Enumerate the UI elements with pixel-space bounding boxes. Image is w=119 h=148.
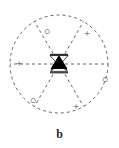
sector-symbol-top-right-plus: + — [81, 28, 93, 40]
sector-symbol-right-circle: ○ — [99, 74, 111, 86]
sector-symbol-bottom-left-circle: ○ — [27, 95, 39, 107]
bowtie-bottom-bar-overlay — [50, 71, 68, 73]
figure-panel-b: ○++○○+ b — [0, 0, 119, 148]
panel-b-label: b — [0, 128, 119, 140]
bowtie-top-bar-overlay — [50, 54, 68, 56]
sector-symbol-bottom-right-plus: + — [70, 101, 82, 113]
sector-symbol-top-left-circle: ○ — [41, 26, 53, 38]
sector-symbol-left-plus: + — [13, 58, 25, 70]
